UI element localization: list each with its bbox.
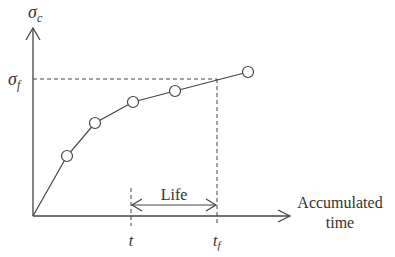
t-label: t [129,232,134,249]
x-axis-label-line1: Accumulated [297,194,382,211]
sigma-f-label: σf [8,69,22,92]
stress-curve [33,72,248,216]
life-label: Life [161,186,188,203]
y-axis [26,28,40,216]
data-point [170,86,181,97]
data-point [243,67,254,78]
dashed-guides [33,79,217,226]
data-point [90,118,101,129]
tf-label: tf [213,232,222,251]
x-axis [33,210,290,222]
creep-life-diagram: σc σf Life t tf Accumulated time [0,0,395,257]
x-axis-label-line2: time [326,214,354,231]
data-points [62,67,254,162]
data-point [128,97,139,108]
data-point [62,151,73,162]
diagram-svg: σc σf Life t tf Accumulated time [0,0,395,257]
y-axis-label: σc [28,2,43,25]
